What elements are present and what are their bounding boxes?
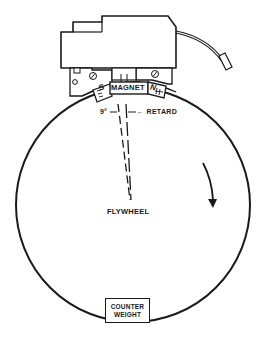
flywheel-label: FLYWHEEL: [107, 208, 149, 216]
lead-wire: [176, 32, 232, 70]
ignition-coil-housing: [61, 16, 176, 68]
timing-lines: [110, 104, 136, 200]
magnet-label: MAGNET: [111, 84, 145, 92]
counter-weight-label-line2: WEIGHT: [114, 311, 141, 318]
flywheel-rim: [16, 88, 250, 322]
rotation-arrow-icon: [203, 163, 217, 208]
counter-weight-label-line1: COUNTER: [111, 303, 145, 310]
north-pole-label: N: [149, 84, 156, 93]
angle-label: 9°: [100, 108, 107, 115]
counter-weight: COUNTER WEIGHT: [105, 298, 150, 323]
retard-label: ← RETARD: [137, 108, 177, 115]
flywheel-magneto-diagram: [0, 0, 265, 338]
